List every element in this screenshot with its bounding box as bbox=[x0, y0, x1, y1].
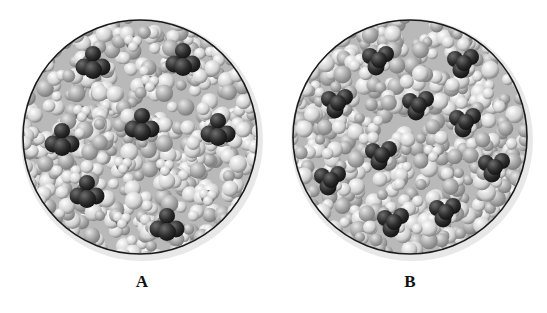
panel-label-b: B bbox=[395, 272, 425, 292]
molecule-diagram-b bbox=[0, 0, 547, 313]
panel-b: B bbox=[0, 0, 547, 313]
